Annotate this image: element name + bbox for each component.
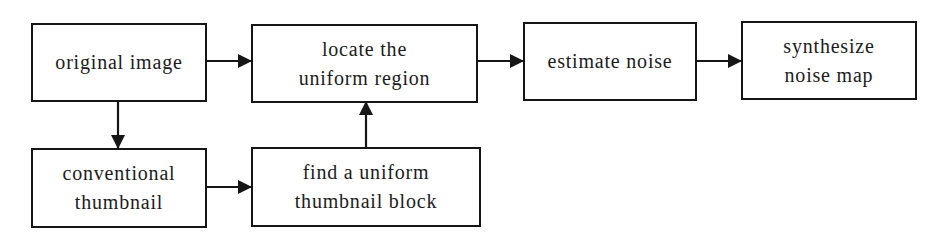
node-label: synthesize [783, 32, 874, 61]
node-synthesize-noise-map: synthesize noise map [741, 21, 917, 100]
node-estimate-noise: estimate noise [523, 22, 697, 101]
node-label: conventional [63, 159, 176, 188]
node-label: thumbnail block [295, 187, 438, 216]
node-label: find a uniform [303, 158, 430, 187]
node-locate-uniform-region: locate the uniform region [251, 24, 478, 103]
node-original-image: original image [31, 23, 207, 102]
node-label: noise map [785, 61, 874, 90]
node-label: original image [55, 48, 182, 77]
node-find-uniform-thumbnail-block: find a uniform thumbnail block [251, 147, 481, 227]
node-label: thumbnail [75, 188, 163, 217]
node-label: estimate noise [547, 47, 672, 76]
node-label: locate the [322, 35, 407, 64]
node-label: uniform region [299, 64, 431, 93]
node-conventional-thumbnail: conventional thumbnail [31, 148, 207, 228]
